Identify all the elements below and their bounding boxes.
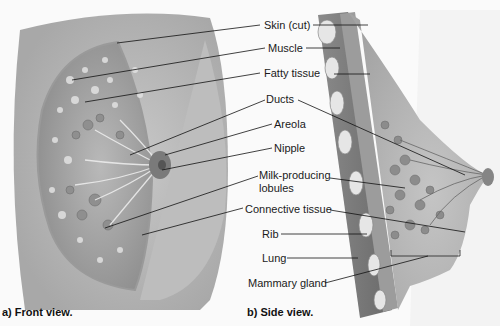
label-nipple: Nipple [274, 142, 305, 154]
label-muscle: Muscle [268, 42, 303, 54]
label-areola: Areola [274, 118, 306, 130]
label-lobules: lobules [259, 182, 294, 194]
label-ducts: Ducts [266, 93, 294, 105]
label-lung: Lung [262, 252, 286, 264]
label-milk-producing: Milk-producing [259, 169, 331, 181]
side-view [318, 10, 500, 326]
label-skin-cut: Skin (cut) [264, 19, 310, 31]
label-fatty-tissue: Fatty tissue [264, 67, 320, 79]
caption-side-view: b) Side view. [247, 306, 313, 318]
label-rib: Rib [262, 228, 279, 240]
front-view [14, 14, 228, 310]
label-mammary-gland: Mammary gland [248, 277, 327, 289]
caption-front-view: a) Front view. [2, 306, 73, 318]
anatomy-figure: Skin (cut) Muscle Fatty tissue Ducts Are… [0, 0, 500, 326]
label-connective-tissue: Connective tissue [245, 203, 332, 215]
